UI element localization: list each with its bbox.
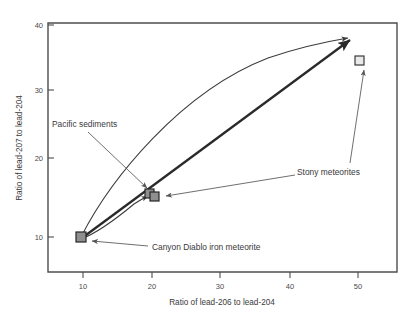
chart-figure: 40 30 20 10 10 20 30 40 50 Ratio of lead… — [0, 0, 418, 321]
leader-stony-meteorites — [350, 70, 364, 163]
y-axis-ticks — [48, 25, 54, 237]
data-point-stony-meteorites[interactable] — [355, 56, 364, 65]
y-tick-label-30: 30 — [35, 86, 43, 95]
y-axis-tick-labels: 40 30 20 10 — [35, 21, 43, 242]
data-point-canyon-diablo[interactable] — [76, 232, 86, 242]
x-axis-title: Ratio of lead-206 to lead-204 — [169, 298, 275, 307]
x-tick-label-40: 40 — [286, 282, 294, 291]
x-tick-label-10: 10 — [79, 282, 87, 291]
x-tick-label-30: 30 — [216, 282, 224, 291]
x-axis-ticks — [83, 272, 358, 278]
growth-curve-upper — [81, 38, 348, 237]
annotation-stony-meteorites: Stony meteorites — [297, 167, 360, 177]
plot-frame — [48, 23, 397, 272]
y-axis-title: Ratio of lead-207 to lead-204 — [15, 95, 24, 201]
lead-isotope-scatter-plot: 40 30 20 10 10 20 30 40 50 Ratio of lead… — [0, 0, 418, 321]
y-tick-label-40: 40 — [35, 21, 43, 30]
leader-canyon-diablo — [92, 241, 148, 246]
annotation-canyon-diablo: Canyon Diablo iron meteorite — [152, 242, 261, 252]
leader-stony-meteorites-mid — [166, 175, 295, 196]
isochron-line — [82, 40, 350, 238]
y-tick-label-20: 20 — [35, 154, 43, 163]
y-tick-label-10: 10 — [35, 233, 43, 242]
x-tick-label-50: 50 — [354, 282, 362, 291]
annotation-pacific-sediments: Pacific sediments — [52, 119, 117, 129]
x-axis-tick-labels: 10 20 30 40 50 — [79, 282, 362, 291]
data-point-stony-meteorites-mid[interactable] — [150, 192, 159, 201]
x-tick-label-20: 20 — [148, 282, 156, 291]
